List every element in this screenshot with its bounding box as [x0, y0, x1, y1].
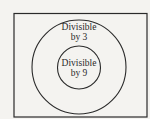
inner-set-label-line2: by 9	[71, 68, 88, 78]
inner-set-label-line1: Divisible	[62, 58, 97, 68]
venn-diagram: Divisible by 3 Divisible by 9	[0, 0, 150, 119]
outer-set-label-line2: by 3	[71, 32, 88, 42]
outer-set-label-line1: Divisible	[62, 22, 97, 32]
